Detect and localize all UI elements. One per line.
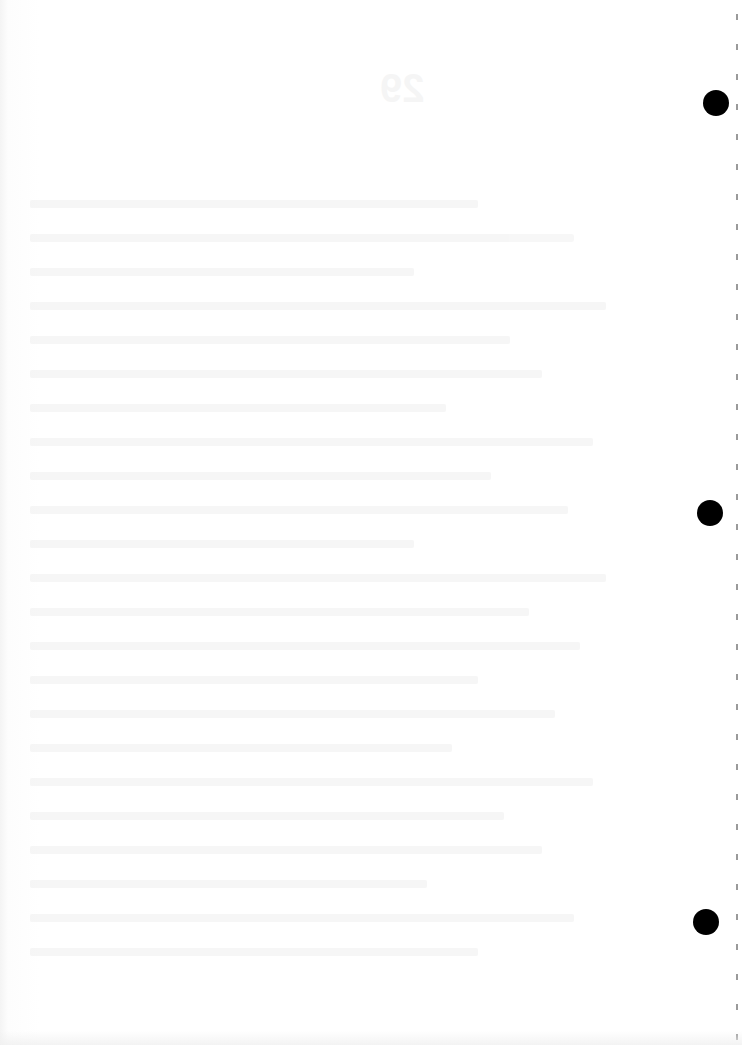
show-through-line bbox=[30, 574, 606, 582]
show-through-line bbox=[30, 948, 478, 956]
show-through-line bbox=[30, 506, 568, 514]
show-through-line bbox=[30, 302, 606, 310]
show-through-page-number: 29 bbox=[380, 66, 425, 111]
show-through-line bbox=[30, 540, 414, 548]
show-through-line bbox=[30, 744, 452, 752]
show-through-line bbox=[30, 676, 478, 684]
show-through-line bbox=[30, 642, 580, 650]
show-through-text-block bbox=[30, 200, 670, 982]
show-through-line bbox=[30, 200, 478, 208]
scanned-page: 29 bbox=[0, 0, 742, 1045]
show-through-line bbox=[30, 880, 427, 888]
show-through-line bbox=[30, 812, 504, 820]
show-through-line bbox=[30, 404, 446, 412]
punch-hole-middle bbox=[697, 500, 723, 526]
show-through-line bbox=[30, 710, 555, 718]
punch-hole-bottom bbox=[693, 909, 719, 935]
show-through-line bbox=[30, 608, 529, 616]
punch-hole-top bbox=[703, 90, 729, 116]
show-through-line bbox=[30, 336, 510, 344]
show-through-line bbox=[30, 778, 593, 786]
show-through-line bbox=[30, 370, 542, 378]
page-bottom-edge bbox=[0, 1031, 742, 1045]
show-through-line bbox=[30, 268, 414, 276]
show-through-line bbox=[30, 846, 542, 854]
show-through-line bbox=[30, 438, 593, 446]
show-through-line bbox=[30, 472, 491, 480]
show-through-line bbox=[30, 234, 574, 242]
perforation-line bbox=[736, 0, 738, 1045]
show-through-line bbox=[30, 914, 574, 922]
